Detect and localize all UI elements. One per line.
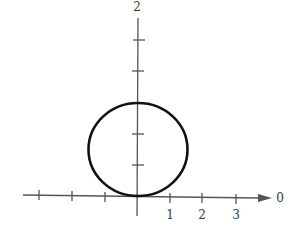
tick-label-3: 3 (232, 208, 240, 222)
polar-graph: 2 0 1 2 3 (0, 0, 288, 241)
tick-label-1: 1 (166, 208, 174, 222)
tick-label-2: 2 (198, 208, 206, 222)
arrow-right-icon (258, 194, 272, 202)
vertical-axis (137, 18, 138, 216)
polar-axis-label: 0 (276, 191, 284, 205)
vertical-axis-label: 2 (133, 0, 141, 14)
